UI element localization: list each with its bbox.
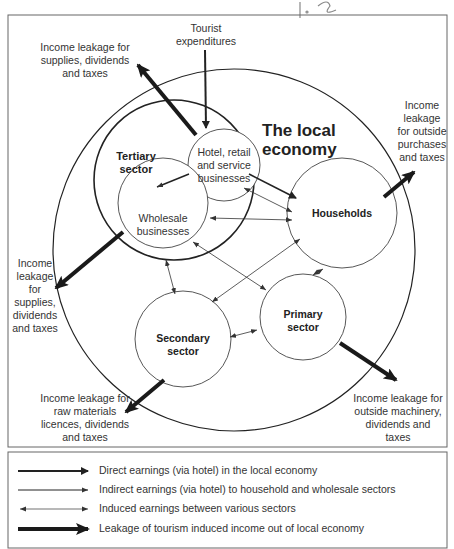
tourist-expenditures-label: Touristexpenditures — [166, 22, 246, 48]
tertiary-sector-label: Tertiarysector — [106, 150, 166, 176]
leakage-hotel-label: Income leakage forsupplies, dividendsand… — [30, 41, 140, 80]
leakage-wholesale-label: Incomeleakageforsupplies,dividendsand ta… — [8, 257, 62, 335]
wholesale-label: Wholesalebusinesses — [118, 212, 208, 238]
local-economy-title: The local economy — [262, 121, 337, 159]
households-label: Households — [292, 207, 392, 220]
title-line-2: economy — [262, 140, 337, 159]
leakage-households-label: Incomeleakagefor outsidepurchasesand tax… — [392, 99, 452, 164]
hotel-label: Hotel, retailand servicebusinesses — [181, 146, 267, 185]
legend-item-induced: Induced earnings between various sectors — [99, 502, 296, 515]
legend-item-indirect: Indirect earnings (via hotel) to househo… — [99, 483, 396, 496]
primary-sector-label: Primarysector — [263, 308, 343, 334]
handwritten-mark — [300, 2, 336, 18]
legend-item-leakage: Leakage of tourism induced income out of… — [99, 522, 364, 535]
tourist-expenditure-arrow — [205, 50, 206, 128]
title-line-1: The local — [262, 121, 337, 140]
secondary-sector-label: Secondarysector — [138, 332, 228, 358]
legend-item-direct: Direct earnings (via hotel) in the local… — [99, 464, 317, 477]
leakage-secondary-label: Income leakage forraw materialslicences,… — [30, 392, 140, 444]
leakage-primary-label: Income leakage foroutside machinery,divi… — [348, 392, 448, 444]
